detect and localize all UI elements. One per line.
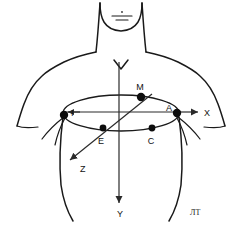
electrode-dot-I[interactable] [60,111,68,119]
neck-right-outline [142,3,146,52]
axis-label-y: Y [117,209,123,219]
neck-left-outline [96,3,100,52]
axis-label-z: Z [80,164,86,174]
axis-label-x: X [204,108,210,118]
torso-diagram-svg: I E C A M X Y Z ЛТ [0,0,242,228]
electrode-dot-C[interactable] [149,125,156,132]
transverse-plane-ellipse [63,95,179,131]
sternal-notch-v-icon [114,60,128,69]
right-arm-inner-outline [204,126,225,128]
ecg-electrode-placement-figure: I E C A M X Y Z ЛТ [0,0,242,228]
left-arm-inner-outline [17,126,38,128]
right-flank-outline [169,117,182,221]
electrode-label-A: A [166,103,172,113]
neck-group [96,3,146,52]
electrode-label-E: E [98,136,104,146]
electrode-label-I: I [71,108,74,118]
chin-and-jaw-group [100,3,142,31]
electrode-label-M: M [136,82,144,92]
electrode-dot-E[interactable] [100,125,107,132]
electrode-dot-M[interactable] [137,93,145,101]
left-flank-outline [60,117,73,221]
torso-outline-group [17,52,225,221]
figure-corner-mark: ЛТ [190,208,200,217]
electrode-label-C: C [148,136,155,146]
electrode-dot-A[interactable] [173,109,181,117]
jaw-outline [100,3,142,31]
transverse-plane-group [63,95,179,131]
right-shoulder-outline [146,52,225,126]
sternal-notch-group [114,60,128,69]
left-shoulder-outline [17,52,96,126]
chin-dot-icon [121,11,123,13]
